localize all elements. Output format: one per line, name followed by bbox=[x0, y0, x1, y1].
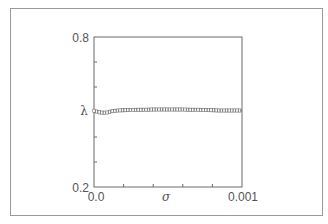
x-tick-label-left: 0.0 bbox=[88, 190, 105, 204]
x-tick-label-right: 0.001 bbox=[228, 190, 258, 204]
y-tick-label-top: 0.8 bbox=[72, 31, 89, 45]
data-series-markers bbox=[93, 108, 241, 114]
x-axis-label: σ bbox=[162, 190, 171, 204]
chart: 0.8 0.2 λ 0.0 0.001 σ bbox=[0, 0, 328, 224]
y-axis-label: λ bbox=[80, 104, 88, 118]
